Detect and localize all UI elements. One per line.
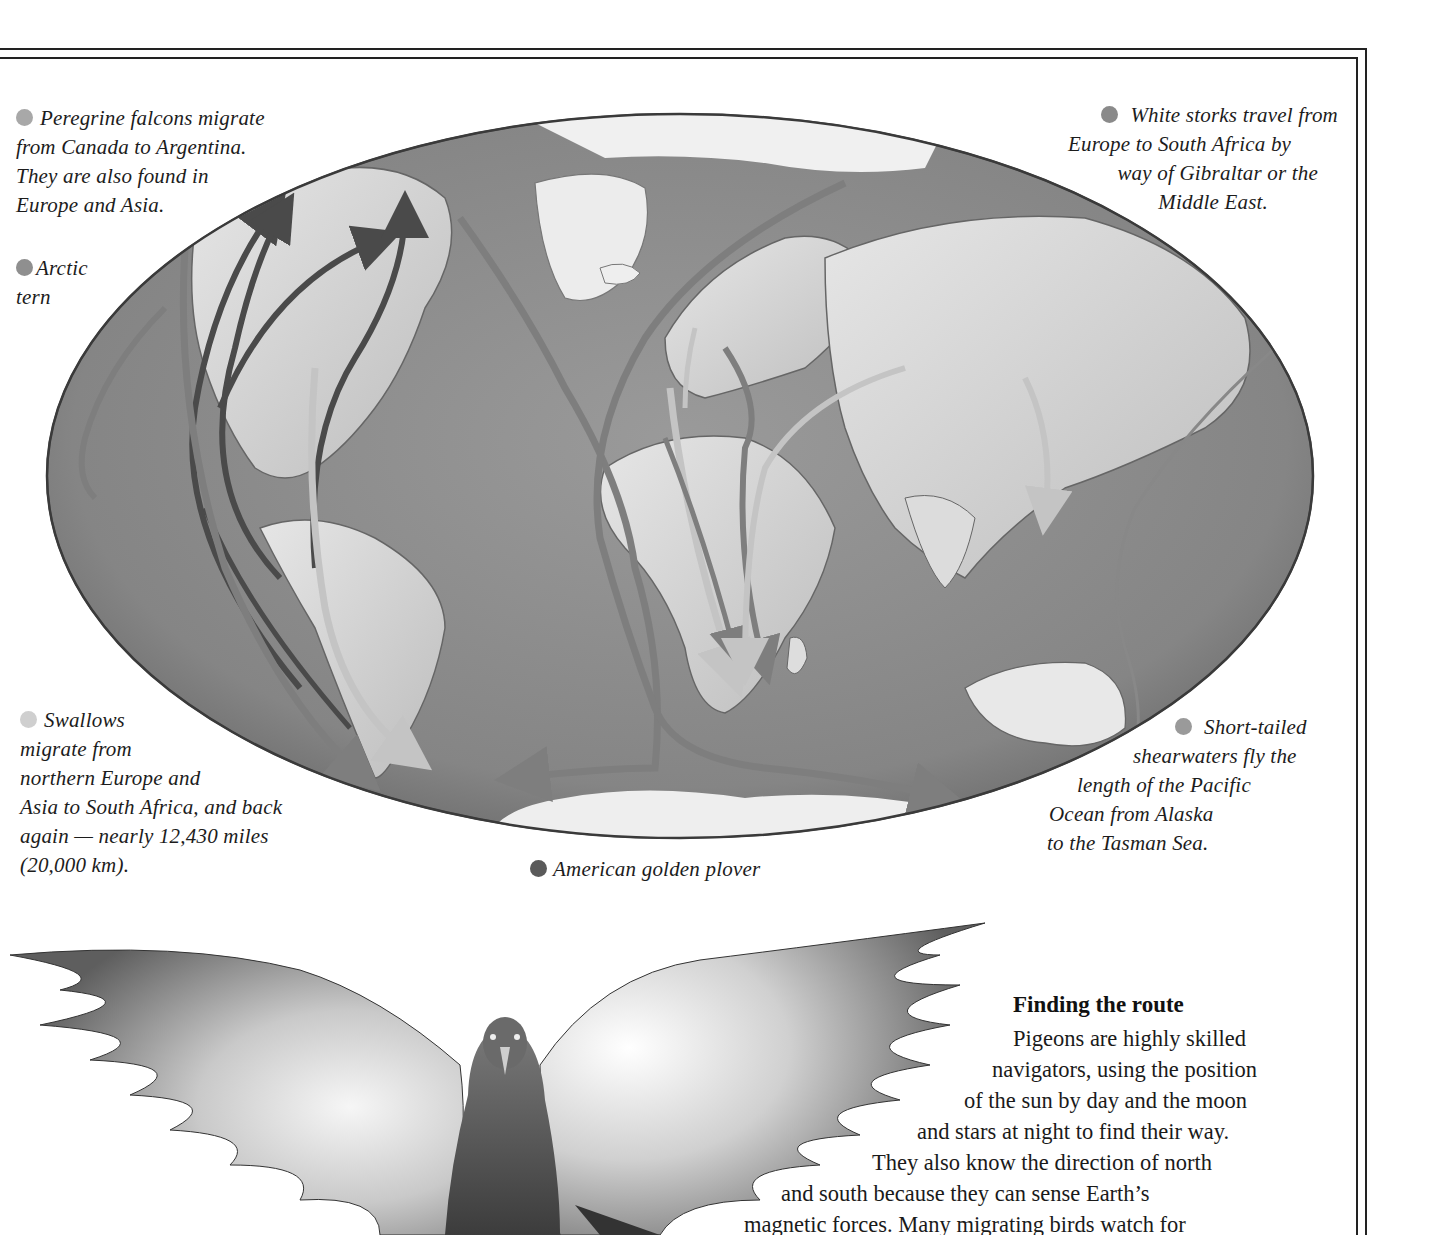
white-storks-bullet-icon: [1101, 106, 1118, 123]
body-line: Pigeons are highly skilled: [1013, 1023, 1246, 1054]
caption-line: Short-tailed: [1204, 715, 1307, 739]
caption-arctic-tern: Arctic tern: [16, 254, 116, 312]
caption-line: They are also found in: [16, 164, 209, 188]
caption-swallows: Swallows migrate from northern Europe an…: [20, 706, 340, 880]
caption-line: from Canada to Argentina.: [16, 135, 247, 159]
caption-peregrine-falcons: Peregrine falcons migrate from Canada to…: [16, 104, 306, 220]
arctic-tern-bullet-icon: [16, 259, 33, 276]
caption-line: (20,000 km).: [20, 853, 129, 877]
caption-line: migrate from: [20, 737, 132, 761]
caption-short-tailed-shearwaters: Short-tailed shearwaters fly the length …: [1045, 713, 1325, 858]
peregrine-bullet-icon: [16, 109, 33, 126]
caption-line: White storks travel from: [1130, 103, 1338, 127]
caption-line: Asia to South Africa, and back: [20, 795, 282, 819]
swallows-bullet-icon: [20, 711, 37, 728]
caption-american-golden-plover: American golden plover: [530, 855, 830, 884]
caption-line: Middle East.: [1068, 188, 1338, 217]
caption-line: again — nearly 12,430 miles: [20, 824, 269, 848]
shearwaters-bullet-icon: [1175, 718, 1192, 735]
caption-line: shearwaters fly the: [1045, 742, 1325, 771]
caption-line: tern: [16, 285, 51, 309]
caption-line: Arctic: [36, 256, 88, 280]
caption-line: Swallows: [44, 708, 125, 732]
caption-line: Europe and Asia.: [16, 193, 164, 217]
plover-bullet-icon: [530, 860, 547, 877]
body-line: of the sun by day and the moon: [964, 1085, 1247, 1116]
caption-line: northern Europe and: [20, 766, 200, 790]
caption-line: Europe to South Africa by: [1068, 130, 1338, 159]
caption-white-storks: White storks travel from Europe to South…: [1068, 101, 1338, 217]
caption-line: Peregrine falcons migrate: [40, 106, 265, 130]
caption-line: Ocean from Alaska: [1045, 800, 1325, 829]
body-line: navigators, using the position: [992, 1054, 1257, 1085]
body-line: magnetic forces. Many migrating birds wa…: [744, 1209, 1186, 1235]
caption-line: to the Tasman Sea.: [1045, 829, 1325, 858]
body-line: and south because they can sense Earth’s: [781, 1178, 1150, 1209]
body-line: and stars at night to find their way.: [917, 1116, 1229, 1147]
caption-line: length of the Pacific: [1045, 771, 1325, 800]
caption-line: way of Gibraltar or the: [1068, 159, 1338, 188]
caption-line: American golden plover: [553, 857, 760, 881]
section-heading: Finding the route: [1013, 992, 1184, 1018]
body-line: They also know the direction of north: [872, 1147, 1212, 1178]
